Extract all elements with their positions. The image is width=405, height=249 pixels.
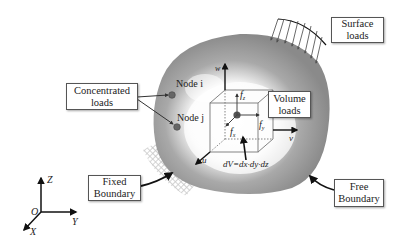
node-i-label: Node i [176, 78, 203, 89]
displacement-u-label: u [202, 155, 207, 165]
node-i-point [169, 92, 176, 99]
fixed-boundary-label: Fixed Boundary [88, 175, 141, 201]
volume-loads-line1: Volume [269, 93, 310, 105]
volume-loads-line2: loads [269, 105, 310, 117]
axis-y-label: Y [72, 216, 79, 227]
surface-loads-line2: loads [332, 30, 383, 42]
volume-formula: dV=dx·dy·dz [223, 159, 269, 169]
fixed-boundary-line2: Boundary [89, 188, 140, 200]
concentrated-loads-label: Concentrated loads [66, 83, 138, 110]
free-boundary-label: Free Boundary [334, 179, 384, 207]
displacement-w-label: w [215, 64, 221, 73]
free-boundary-line2: Boundary [335, 193, 383, 205]
axis-z-label: Z [47, 174, 53, 185]
volume-loads-label: Volume loads [268, 91, 311, 118]
axis-origin-label: O [31, 206, 38, 217]
node-j-label: Node j [177, 112, 204, 123]
surface-loads-line1: Surface [332, 18, 383, 30]
global-axes [24, 178, 76, 230]
surface-loads-label: Surface loads [331, 17, 384, 43]
free-boundary-arrow [310, 176, 334, 190]
concentrated-loads-line2: loads [67, 97, 137, 109]
fixed-boundary-line1: Fixed [89, 176, 140, 188]
displacement-v-label: v [289, 133, 293, 143]
node-j-point [174, 124, 181, 131]
free-boundary-line1: Free [335, 181, 383, 193]
concentrated-loads-line1: Concentrated [67, 85, 137, 97]
axis-x-label: X [29, 226, 37, 237]
